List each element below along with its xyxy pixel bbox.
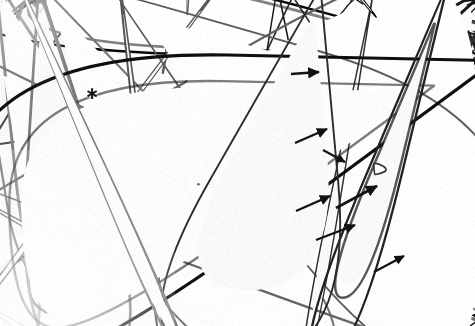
micrograph-image: ∗ [0,0,475,326]
tissue-section-canvas [0,0,475,326]
asterisk-marker: ∗ [85,85,99,102]
